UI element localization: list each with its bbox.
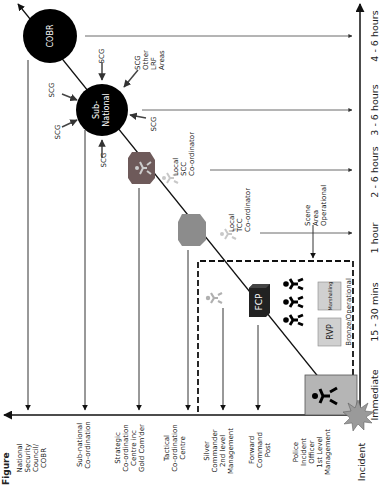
svg-text:Strategic: Strategic — [114, 432, 122, 464]
scg-other-label: SCG Other LRF Areas — [134, 50, 166, 70]
local-tcc-label: Local TCC Co-ordinator — [228, 188, 252, 233]
fcp-node: FCP — [249, 284, 270, 317]
level-label-strategic: Strategic Co-ordination Centre inc Gold … — [114, 424, 146, 472]
svg-text:Gold Com'der: Gold Com'der — [138, 424, 146, 472]
scg-label: SCG — [48, 83, 56, 98]
svg-text:Officer: Officer — [308, 440, 316, 463]
svg-text:Security: Security — [24, 444, 32, 473]
figure-caption: Figure — [1, 452, 11, 485]
command-structure-diagram: COBR Sub- National SCG SCG SCG SCG SCG S… — [0, 0, 385, 485]
level-label-tactical: Tactical Co-ordination Centre — [163, 424, 187, 472]
scg-arrow — [130, 115, 146, 118]
svg-text:Co-ordinator: Co-ordinator — [188, 132, 196, 176]
svg-text:Local: Local — [228, 214, 236, 232]
sub-national-label-1: Sub- — [92, 101, 101, 119]
silver-person-icon — [206, 293, 222, 303]
svg-text:Silver: Silver — [203, 441, 211, 461]
svg-text:Co-ordination: Co-ordination — [122, 424, 130, 472]
svg-text:Co-ordination: Co-ordination — [84, 421, 92, 469]
scg-label: SCG — [54, 125, 62, 140]
svg-text:Co-ordinator: Co-ordinator — [244, 188, 252, 232]
svg-text:Command: Command — [256, 432, 264, 468]
scg-arrow — [62, 120, 77, 127]
svg-text:Management: Management — [227, 428, 235, 474]
sub-national-label-2: National — [102, 93, 111, 126]
svg-text:Forward: Forward — [248, 436, 256, 464]
svg-text:Police: Police — [292, 442, 300, 462]
svg-text:Council/: Council/ — [32, 443, 40, 472]
tactical-node — [178, 214, 206, 246]
svg-text:Incident: Incident — [300, 438, 308, 466]
svg-text:Tactical: Tactical — [163, 435, 171, 462]
svg-text:Post: Post — [264, 442, 272, 457]
bronze-label: Bronze/Operational — [345, 278, 353, 346]
level-label-sub-national: Sub-national Co-ordination — [76, 421, 92, 469]
scg-arrow — [124, 70, 138, 87]
scene-area-label: Scene Area Operational — [304, 185, 328, 226]
svg-text:Centre inc: Centre inc — [130, 430, 138, 466]
scg-label: SCG — [100, 153, 108, 168]
svg-text:LRF: LRF — [150, 57, 158, 70]
incident-label: Incident — [356, 443, 367, 482]
strategic-node — [128, 152, 155, 184]
responder-icon — [283, 315, 303, 325]
rvp-label: RVP — [326, 324, 335, 340]
escalation-line — [18, 4, 345, 410]
level-label-national: National Security Council/ COBR — [16, 443, 48, 472]
svg-text:Scene: Scene — [304, 205, 312, 226]
fcp-label: FCP — [254, 293, 264, 310]
svg-text:SCC: SCC — [180, 162, 188, 176]
svg-text:Commander: Commander — [211, 429, 219, 472]
scg-label: SCG — [150, 117, 158, 132]
svg-text:Areas: Areas — [158, 50, 166, 70]
time-label-1h: 1 hour — [369, 222, 380, 253]
time-label-3-6h: 3 - 6 hours — [369, 84, 380, 135]
svg-text:Sub-national: Sub-national — [76, 423, 84, 467]
time-label-15-30: 15 - 30 mins — [369, 282, 380, 342]
svg-text:2nd level: 2nd level — [219, 435, 227, 467]
svg-text:1st Level: 1st Level — [316, 436, 324, 468]
svg-text:Other: Other — [142, 50, 150, 70]
level-label-silver: Silver Commander 2nd level Management — [203, 428, 235, 474]
level-label-forward: Forward Command Post — [248, 432, 272, 468]
svg-text:National: National — [16, 443, 24, 472]
marshalling-label: Marshalling — [327, 282, 334, 311]
local-scc-label: Local SCC Co-ordinator — [172, 132, 196, 176]
svg-text:Centre: Centre — [179, 436, 187, 459]
svg-text:Co-ordination: Co-ordination — [171, 424, 179, 472]
level-label-police: Police Incident Officer 1st Level Manage… — [292, 429, 332, 475]
svg-text:SCG: SCG — [134, 55, 142, 70]
responder-icon — [283, 279, 303, 289]
cobr-label: COBR — [46, 24, 55, 47]
time-label-immediate: Immediate — [369, 369, 380, 420]
scg-label: SCG — [98, 49, 106, 64]
scg-arrow — [62, 94, 77, 100]
time-label-4-6h: 4 - 6 hours — [369, 10, 380, 61]
time-label-2-6h: 2 - 6 hours — [369, 146, 380, 197]
responder-icon — [283, 297, 303, 307]
svg-text:COBR: COBR — [40, 448, 48, 468]
svg-text:Management: Management — [324, 429, 332, 475]
svg-text:Operational: Operational — [320, 185, 328, 226]
svg-text:TCC: TCC — [236, 218, 244, 233]
svg-text:Area: Area — [312, 210, 320, 226]
svg-text:Local: Local — [172, 158, 180, 176]
